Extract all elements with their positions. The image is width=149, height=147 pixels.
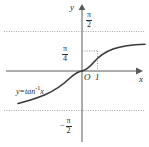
curve-equation-base: y=tan <box>16 87 35 96</box>
origin-label: O <box>84 73 91 82</box>
pi-over-2-numerator: π <box>86 11 92 19</box>
arctangent-graph-figure: y x π 2 π 4 − π 2 O 1 y=tan-1x <box>0 0 149 147</box>
graph-canvas <box>0 0 149 147</box>
pi-over-2-denominator: 2 <box>86 20 92 29</box>
negative-pi-over-2-numerator: π <box>66 117 72 125</box>
pi-over-4-numerator: π <box>62 45 68 53</box>
curve-equation-variable: x <box>40 87 44 96</box>
pi-over-4-denominator: 4 <box>62 54 68 63</box>
y-tick-label-pi-over-2: π 2 <box>86 11 92 29</box>
y-axis-arrow <box>79 4 86 10</box>
x-tick-label-1: 1 <box>95 73 100 82</box>
y-tick-label-negative-pi-over-2: − π 2 <box>60 115 72 135</box>
y-axis-label: y <box>70 3 74 12</box>
negative-pi-over-2-denominator: 2 <box>66 126 72 135</box>
negative-sign: − <box>60 122 65 130</box>
curve-equation-label: y=tan-1x <box>16 85 44 96</box>
y-tick-label-pi-over-4: π 4 <box>62 45 68 63</box>
x-axis-label: x <box>139 75 143 84</box>
